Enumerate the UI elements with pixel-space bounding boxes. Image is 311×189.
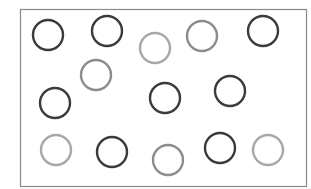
circles-diagram — [0, 0, 311, 189]
diagram-svg — [0, 0, 311, 189]
